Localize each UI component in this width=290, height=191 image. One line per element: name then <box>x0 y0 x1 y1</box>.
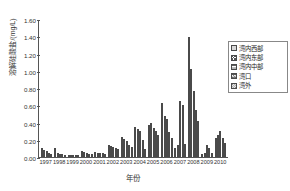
bar <box>171 138 173 157</box>
bar-group <box>187 20 200 157</box>
legend-item-label: 湾内东部 <box>239 53 263 62</box>
y-axis-tick-mark <box>37 89 40 90</box>
legend-swatch-icon <box>231 45 237 51</box>
x-axis-tick-label: 2005 <box>146 159 159 171</box>
x-axis-tick-label: 2010 <box>213 159 226 171</box>
bar <box>104 154 106 157</box>
y-axis-tick-mark <box>37 141 40 142</box>
bar-group <box>93 20 106 157</box>
y-axis-tick-label: 0.60 <box>24 103 36 110</box>
bar <box>224 143 226 157</box>
bar-group <box>214 20 227 157</box>
legend-item[interactable]: 湾口 <box>231 72 285 81</box>
bar <box>144 149 146 157</box>
bar <box>64 155 66 157</box>
x-axis-tick-label: 2009 <box>200 159 213 171</box>
dissolved-silicate-bar-chart: 溶解硅酸盐/(mg/L) 0.000.200.400.600.801.001.2… <box>0 0 290 191</box>
y-axis-tick-mark <box>37 124 40 125</box>
x-axis-tick-label: 2006 <box>160 159 173 171</box>
x-axis-tick-label: 1997 <box>39 159 52 171</box>
x-axis-tick-label: 1998 <box>52 159 65 171</box>
y-axis-tick-label: 0.00 <box>24 155 36 162</box>
bar <box>91 154 93 157</box>
y-axis-tick-label: 1.40 <box>24 34 36 41</box>
x-axis-tick-labels: 1997199819992000200120022003200420052006… <box>38 159 228 171</box>
x-axis-tick-label: 2002 <box>106 159 119 171</box>
legend-swatch-icon <box>231 73 237 79</box>
x-axis-tick-label: 2008 <box>187 159 200 171</box>
bar-group <box>120 20 133 157</box>
x-axis-title: 年份 <box>38 172 228 183</box>
bar-group <box>107 20 120 157</box>
bar <box>131 147 133 157</box>
y-axis-tick-label: 0.40 <box>24 120 36 127</box>
bar <box>117 149 119 157</box>
y-axis-tick-label: 1.60 <box>24 17 36 24</box>
legend-item[interactable]: 湾内东部 <box>231 53 285 62</box>
x-axis-tick-label: 2004 <box>133 159 146 171</box>
legend-item[interactable]: 湾内西部 <box>231 44 285 53</box>
bar <box>211 153 213 157</box>
bar <box>184 144 186 157</box>
y-axis-tick-mark <box>37 106 40 107</box>
legend-swatch-icon <box>231 83 237 89</box>
y-axis-tick-label: 0.20 <box>24 137 36 144</box>
bar-group <box>147 20 160 157</box>
x-axis-tick-label: 2001 <box>93 159 106 171</box>
y-axis-tick-mark <box>37 37 40 38</box>
legend-item-label: 湾口 <box>239 72 251 81</box>
y-axis-tick-mark <box>37 72 40 73</box>
y-axis-tick-labels: 0.000.200.400.600.801.001.201.401.60 <box>14 0 36 191</box>
legend-swatch-icon <box>231 55 237 61</box>
bar <box>77 155 79 157</box>
x-axis-tick-label: 2003 <box>120 159 133 171</box>
bar-group <box>53 20 66 157</box>
legend-item[interactable]: 湾内中部 <box>231 62 285 71</box>
y-axis-tick-mark <box>37 55 40 56</box>
bar-group <box>174 20 187 157</box>
y-axis-tick-mark <box>37 20 40 21</box>
legend-item-label: 湾外 <box>239 81 251 90</box>
x-axis-tick-label: 1999 <box>66 159 79 171</box>
bar-groups <box>39 20 228 157</box>
bar-group <box>80 20 93 157</box>
legend: 湾内西部湾内东部湾内中部湾口湾外 <box>228 41 288 93</box>
bar <box>50 154 52 157</box>
y-axis-tick-label: 1.20 <box>24 51 36 58</box>
y-axis-tick-label: 1.00 <box>24 68 36 75</box>
bar-group <box>160 20 173 157</box>
bar-group <box>67 20 80 157</box>
legend-item[interactable]: 湾外 <box>231 81 285 90</box>
bar-group <box>200 20 213 157</box>
bar <box>157 135 159 157</box>
legend-swatch-icon <box>231 64 237 70</box>
legend-item-label: 湾内西部 <box>239 44 263 53</box>
bar-group <box>40 20 53 157</box>
bar <box>197 121 199 157</box>
plot-area <box>38 20 228 158</box>
y-axis-tick-label: 0.80 <box>24 86 36 93</box>
x-axis-tick-label: 2007 <box>173 159 186 171</box>
legend-item-label: 湾内中部 <box>239 62 263 71</box>
bar-group <box>134 20 147 157</box>
x-axis-tick-label: 2000 <box>79 159 92 171</box>
